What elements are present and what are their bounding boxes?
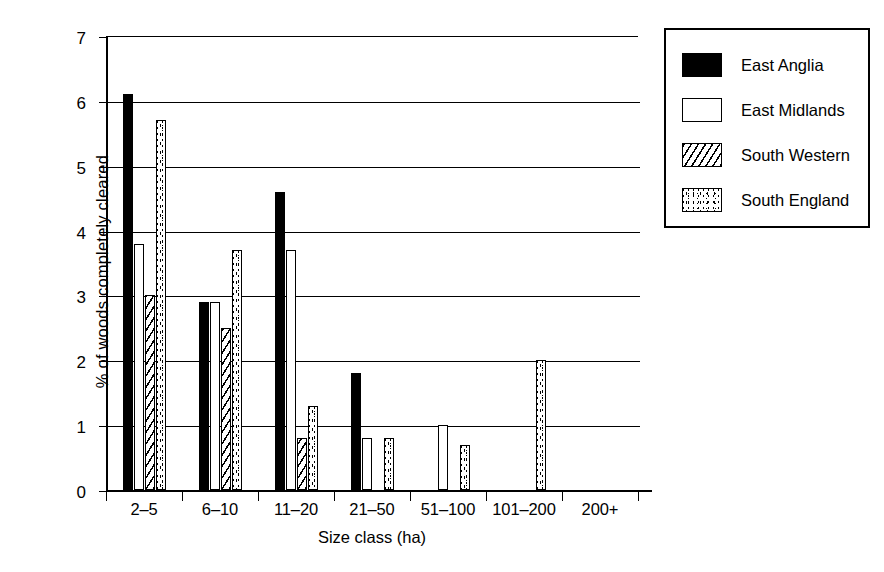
bar [384, 438, 394, 490]
x-axis-tick-label: 51–100 [421, 500, 475, 519]
bar [536, 360, 546, 490]
bar [123, 94, 133, 490]
bar [210, 302, 220, 490]
legend-item: East Anglia [682, 50, 824, 80]
x-axis-tick-label: 200+ [582, 500, 619, 519]
bar [199, 302, 209, 490]
legend-item: South Western [682, 140, 850, 170]
legend-item: South England [682, 185, 849, 215]
bar [362, 438, 372, 490]
gridline [108, 232, 640, 233]
gridline [108, 296, 640, 297]
plot-area: 01234567 [106, 36, 638, 490]
bar [145, 295, 155, 490]
y-axis-tick-label: 4 [77, 224, 86, 241]
bar [438, 425, 448, 490]
gridline [108, 426, 640, 427]
legend-swatch-hatch-icon [682, 143, 722, 167]
y-axis-tick-label: 0 [77, 484, 86, 501]
x-axis-tick-label: 2–5 [130, 500, 157, 519]
legend-label: South Western [741, 146, 850, 165]
x-axis-tick [638, 492, 639, 501]
bar [232, 250, 242, 490]
gridline [108, 102, 640, 103]
legend-label: East Midlands [741, 101, 845, 120]
y-axis-tick: 6 [99, 102, 108, 103]
y-axis-tick: 4 [99, 232, 108, 233]
y-axis-tick-label: 3 [77, 289, 86, 306]
y-axis-tick: 7 [99, 37, 108, 38]
bar [156, 120, 166, 490]
x-axis-tick [182, 492, 183, 501]
y-axis-tick-label: 7 [77, 30, 86, 47]
y-axis-tick-label: 2 [77, 354, 86, 371]
x-axis-title: Size class (ha) [106, 528, 638, 547]
bar [308, 406, 318, 490]
y-axis-tick: 5 [99, 167, 108, 168]
legend-swatch-empty-icon [682, 98, 722, 122]
x-axis-tick [410, 492, 411, 501]
gridline [108, 167, 640, 168]
bar [275, 192, 285, 490]
x-axis-tick [562, 492, 563, 501]
bar [221, 328, 231, 490]
legend-item: East Midlands [682, 95, 845, 125]
x-axis-tick-label: 21–50 [349, 500, 394, 519]
bar [297, 438, 307, 490]
bar-chart-figure: % of woods completely cleared 01234567 2… [0, 0, 884, 572]
legend-label: East Anglia [741, 56, 824, 75]
bar [286, 250, 296, 490]
legend-label: South England [741, 191, 849, 210]
x-axis-tick-label: 101–200 [492, 500, 556, 519]
legend-swatch-dots-icon [682, 188, 722, 212]
y-axis-tick-label: 1 [77, 419, 86, 436]
y-axis-tick: 3 [99, 296, 108, 297]
y-axis-tick-label: 6 [77, 94, 86, 111]
x-axis-tick [334, 492, 335, 501]
x-axis-tick-label: 11–20 [274, 500, 318, 519]
x-axis-tick [258, 492, 259, 501]
x-axis-tick-label: 6–10 [202, 500, 238, 519]
x-axis-line [106, 490, 652, 492]
bar [460, 445, 470, 490]
legend-box: East AngliaEast MidlandsSouth WesternSou… [664, 28, 870, 228]
bar [134, 244, 144, 490]
x-axis-tick [486, 492, 487, 501]
y-axis-tick: 2 [99, 361, 108, 362]
y-axis-tick: 1 [99, 426, 108, 427]
gridline [108, 361, 640, 362]
x-axis-tick [106, 492, 107, 501]
bar [351, 373, 361, 490]
y-axis-tick-label: 5 [77, 159, 86, 176]
legend-swatch-solid-icon [682, 53, 722, 77]
